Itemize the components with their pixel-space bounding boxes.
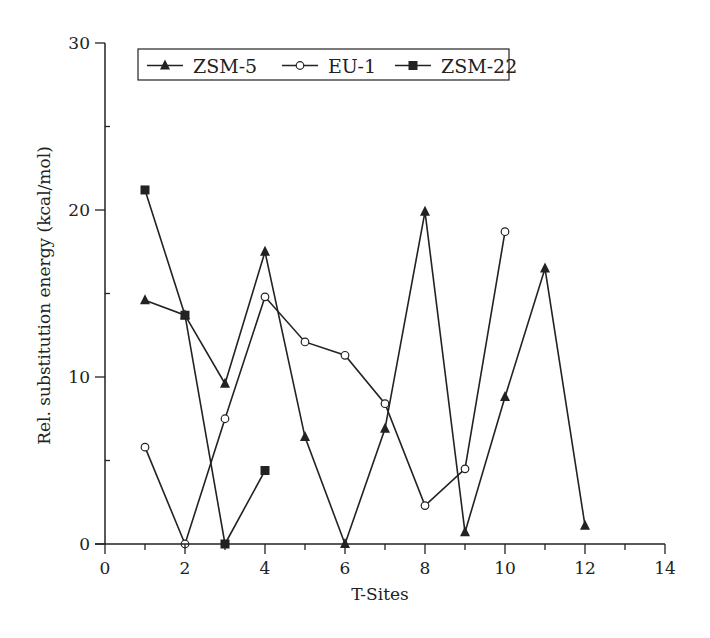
data-point-zsm-5: [500, 391, 510, 401]
data-point-eu-1: [141, 443, 149, 451]
x-tick-label: 8: [420, 558, 431, 578]
data-point-zsm-22: [261, 466, 270, 475]
data-point-zsm-5: [300, 431, 310, 441]
data-point-zsm-5: [140, 294, 150, 304]
data-point-eu-1: [261, 293, 269, 301]
x-tick-label: 10: [494, 558, 516, 578]
legend: ZSM-5EU-1ZSM-22: [138, 49, 517, 80]
plot-area: [140, 185, 590, 548]
x-tick-label: 14: [654, 558, 676, 578]
series-zsm-5: [140, 206, 590, 548]
data-point-eu-1: [301, 338, 309, 346]
data-point-zsm-5: [380, 423, 390, 433]
series-eu-1: [141, 228, 509, 548]
legend-label: EU-1: [328, 55, 376, 77]
x-tick-label: 6: [340, 558, 351, 578]
legend-marker: [296, 62, 304, 70]
data-point-eu-1: [381, 400, 389, 408]
data-point-zsm-5: [420, 206, 430, 216]
legend-label: ZSM-22: [441, 55, 517, 77]
y-tick-label: 10: [68, 367, 90, 387]
data-point-zsm-5: [540, 262, 550, 272]
data-point-eu-1: [501, 228, 509, 236]
data-point-eu-1: [421, 502, 429, 510]
y-tick-label: 30: [68, 33, 90, 53]
legend-marker: [409, 61, 418, 70]
x-tick-label: 0: [100, 558, 111, 578]
data-point-zsm-5: [580, 520, 590, 530]
data-point-eu-1: [341, 351, 349, 359]
y-axis-title: Rel. substitution energy (kcal/mol): [34, 146, 54, 445]
y-tick-label: 20: [68, 200, 90, 220]
legend-label: ZSM-5: [193, 55, 257, 77]
chart: 024681012140102030 T-Sites Rel. substitu…: [0, 0, 710, 638]
x-tick-label: 4: [260, 558, 271, 578]
x-axis-title: T-Sites: [351, 584, 409, 604]
data-point-zsm-22: [141, 185, 150, 194]
data-point-zsm-22: [181, 311, 190, 320]
data-point-zsm-5: [460, 526, 470, 536]
series-line-zsm-5: [145, 212, 585, 544]
x-tick-label: 12: [574, 558, 596, 578]
data-point-eu-1: [461, 465, 469, 473]
x-tick-label: 2: [180, 558, 191, 578]
data-point-eu-1: [221, 415, 229, 423]
series-line-eu-1: [145, 232, 505, 544]
y-tick-label: 0: [79, 534, 90, 554]
data-point-zsm-5: [260, 246, 270, 256]
series-zsm-22: [141, 185, 270, 548]
